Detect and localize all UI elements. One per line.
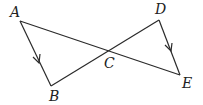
segment-DE [159, 20, 180, 75]
segment-AE [20, 21, 180, 75]
label-E: E [181, 75, 192, 91]
label-D: D [154, 1, 166, 17]
label-B: B [48, 88, 59, 104]
segment-BD [51, 20, 159, 86]
label-A: A [8, 4, 20, 20]
label-C: C [104, 55, 115, 71]
segment-AB [20, 21, 51, 86]
diagram-svg: A B C D E [0, 0, 203, 105]
geometry-diagram: A B C D E [0, 0, 203, 105]
